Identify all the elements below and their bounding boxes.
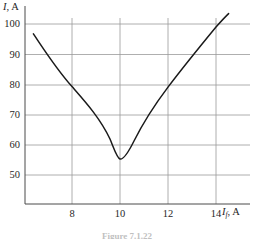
x-axis-unit: , A [228, 206, 240, 217]
x-tick-label-10: 10 [110, 208, 130, 219]
y-tick-label-70: 70 [0, 109, 20, 120]
y-tick-label-60: 60 [0, 139, 20, 150]
vertical-gridlines [72, 18, 216, 204]
y-tick-label-80: 80 [0, 79, 20, 90]
y-axis-title: I, A [3, 1, 19, 12]
x-tick-label-12: 12 [158, 208, 178, 219]
x-tick-label-14: 14 [206, 208, 226, 219]
x-tick-label-8: 8 [62, 208, 82, 219]
v-curve-line [33, 14, 228, 159]
y-tick-label-90: 90 [0, 49, 20, 60]
v-curve-plot [0, 0, 254, 239]
y-tick-label-100: 100 [0, 18, 20, 29]
y-tick-label-50: 50 [0, 169, 20, 180]
y-axis-unit: , A [7, 1, 19, 12]
figure-caption: Figure 7.1.22 [0, 231, 254, 239]
figure-container: I, A If, A 100 90 80 70 60 50 8 10 12 14… [0, 0, 254, 239]
